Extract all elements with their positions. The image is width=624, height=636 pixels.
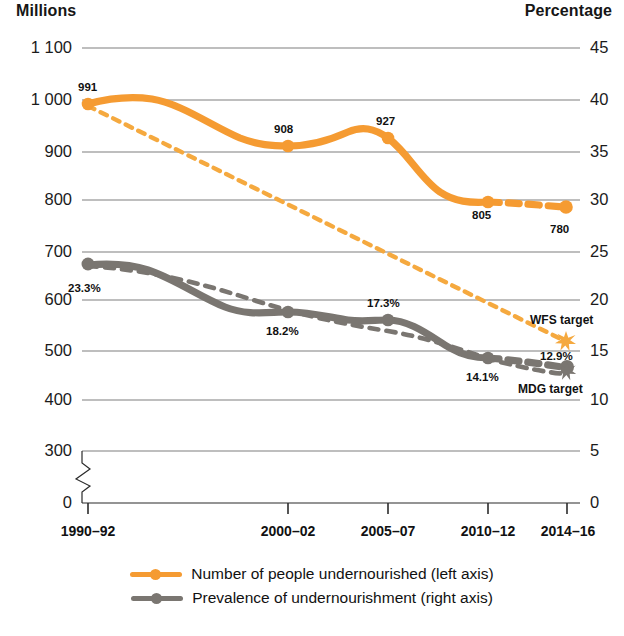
right-tick-10: 10 <box>590 391 608 408</box>
legend-label-prevalence: Prevalence of undernourishment (right ax… <box>192 590 493 606</box>
legend-swatch-gray-icon <box>131 590 183 606</box>
x-tick-2014-16: 2014–16 <box>508 524 624 538</box>
left-tick-0: 0 <box>0 494 72 511</box>
point-label-17-3: 17.3% <box>367 298 400 310</box>
point-label-780: 780 <box>550 224 569 236</box>
point-label-14-1: 14.1% <box>466 372 499 384</box>
wfs-target-star-icon <box>555 331 576 351</box>
left-tick-1100: 1 100 <box>0 39 72 56</box>
legend-item-prevalence: Prevalence of undernourishment (right ax… <box>131 590 493 606</box>
point-label-23-3: 23.3% <box>68 283 101 295</box>
right-axis-title: Percentage <box>525 2 612 20</box>
x-tick-1990-92: 1990–92 <box>28 524 148 538</box>
left-tick-800: 800 <box>0 191 72 208</box>
left-tick-600: 600 <box>0 291 72 308</box>
right-tick-25: 25 <box>590 243 608 260</box>
axis-frame <box>76 451 580 503</box>
right-tick-45: 45 <box>590 39 608 56</box>
right-tick-20: 20 <box>590 291 608 308</box>
wfs-target-label: WFS target <box>530 314 593 326</box>
number-undernourished-markers <box>82 98 573 214</box>
legend: Number of people undernourished (left ax… <box>0 566 624 606</box>
prevalence-line <box>82 258 575 375</box>
right-tick-30: 30 <box>590 191 608 208</box>
left-tick-400: 400 <box>0 391 72 408</box>
legend-swatch-orange-icon <box>130 566 182 582</box>
right-tick-0: 0 <box>590 494 599 511</box>
point-label-908: 908 <box>274 124 293 136</box>
right-tick-15: 15 <box>590 342 608 359</box>
right-tick-40: 40 <box>590 91 608 108</box>
point-label-12-9: 12.9% <box>540 351 573 363</box>
undernourishment-chart: Millions Percentage <box>0 0 624 636</box>
left-tick-1000: 1 000 <box>0 91 72 108</box>
left-tick-700: 700 <box>0 243 72 260</box>
left-tick-900: 900 <box>0 143 72 160</box>
left-tick-500: 500 <box>0 342 72 359</box>
point-label-991: 991 <box>78 82 97 94</box>
right-tick-5: 5 <box>590 442 599 459</box>
left-tick-300: 300 <box>0 442 72 459</box>
legend-label-number-undernourished: Number of people undernourished (left ax… <box>191 566 493 582</box>
legend-item-number-undernourished: Number of people undernourished (left ax… <box>130 566 493 582</box>
point-label-805: 805 <box>472 210 491 222</box>
point-label-927: 927 <box>376 116 395 128</box>
number-undernourished-line <box>82 98 573 214</box>
point-label-18-2: 18.2% <box>266 326 299 338</box>
left-axis-title: Millions <box>16 2 76 20</box>
mdg-target-label: MDG target <box>518 383 583 395</box>
gridlines <box>82 48 580 451</box>
right-tick-35: 35 <box>590 143 608 160</box>
x-tick-marks <box>88 503 567 514</box>
